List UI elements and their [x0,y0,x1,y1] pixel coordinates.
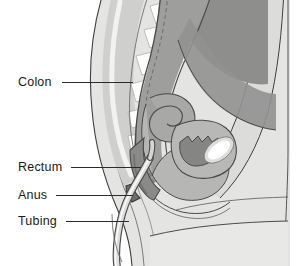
label-rectum: Rectum [18,161,62,174]
label-tubing: Tubing [18,215,57,228]
leader-line-rectum [71,167,141,168]
label-anus: Anus [18,189,47,202]
illustration-figure: Colon Rectum Anus Tubing [0,0,304,266]
leader-line-colon [62,82,133,83]
leader-line-anus [56,195,133,196]
label-colon: Colon [18,76,52,89]
leader-line-tubing [66,221,129,222]
